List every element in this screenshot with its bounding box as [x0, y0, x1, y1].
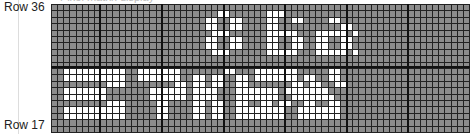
grid-cell[interactable]	[107, 24, 112, 29]
grid-cell[interactable]	[101, 18, 106, 23]
grid-cell[interactable]	[427, 56, 432, 61]
grid-cell[interactable]	[64, 88, 69, 93]
grid-cell[interactable]	[378, 11, 383, 16]
grid-cell[interactable]	[267, 50, 272, 55]
grid-cell[interactable]	[415, 5, 420, 10]
grid-cell[interactable]	[83, 120, 88, 125]
grid-cell[interactable]	[64, 114, 69, 119]
grid-cell[interactable]	[298, 31, 303, 36]
grid-cell[interactable]	[236, 88, 241, 93]
grid-cell[interactable]	[249, 37, 254, 42]
grid-cell[interactable]	[316, 114, 321, 119]
grid-cell[interactable]	[439, 88, 444, 93]
grid-cell[interactable]	[83, 24, 88, 29]
grid-cell[interactable]	[89, 101, 94, 106]
grid-cell[interactable]	[150, 37, 155, 42]
grid-cell[interactable]	[132, 88, 137, 93]
grid-cell[interactable]	[310, 56, 315, 61]
grid-cell[interactable]	[298, 114, 303, 119]
grid-cell[interactable]	[464, 88, 469, 93]
grid-cell[interactable]	[89, 11, 94, 16]
grid-cell[interactable]	[243, 88, 248, 93]
grid-cell[interactable]	[304, 114, 309, 119]
grid-cell[interactable]	[175, 5, 180, 10]
grid-cell[interactable]	[206, 114, 211, 119]
grid-cell[interactable]	[187, 11, 192, 16]
grid-cell[interactable]	[255, 88, 260, 93]
grid-cell[interactable]	[169, 31, 174, 36]
grid-cell[interactable]	[249, 31, 254, 36]
grid-cell[interactable]	[359, 101, 364, 106]
grid-cell[interactable]	[322, 43, 327, 48]
grid-cell[interactable]	[200, 120, 205, 125]
grid-cell[interactable]	[193, 50, 198, 55]
grid-cell[interactable]	[439, 5, 444, 10]
grid-cell[interactable]	[390, 82, 395, 87]
grid-cell[interactable]	[304, 37, 309, 42]
grid-cell[interactable]	[175, 50, 180, 55]
grid-cell[interactable]	[427, 69, 432, 74]
grid-cell[interactable]	[464, 5, 469, 10]
grid-cell[interactable]	[58, 37, 63, 42]
grid-cell[interactable]	[372, 114, 377, 119]
grid-cell[interactable]	[236, 69, 241, 74]
grid-cell[interactable]	[193, 11, 198, 16]
grid-cell[interactable]	[224, 11, 229, 16]
grid-cell[interactable]	[415, 82, 420, 87]
grid-cell[interactable]	[384, 56, 389, 61]
grid-cell[interactable]	[150, 101, 155, 106]
grid-cell[interactable]	[200, 127, 205, 132]
grid-cell[interactable]	[144, 75, 149, 80]
grid-cell[interactable]	[107, 88, 112, 93]
grid-cell[interactable]	[181, 56, 186, 61]
grid-cell[interactable]	[390, 101, 395, 106]
grid-cell[interactable]	[243, 107, 248, 112]
grid-cell[interactable]	[286, 75, 291, 80]
grid-cell[interactable]	[64, 69, 69, 74]
grid-cell[interactable]	[163, 75, 168, 80]
grid-cell[interactable]	[452, 107, 457, 112]
grid-cell[interactable]	[378, 43, 383, 48]
grid-cell[interactable]	[249, 50, 254, 55]
grid-cell[interactable]	[64, 50, 69, 55]
grid-cell[interactable]	[249, 114, 254, 119]
grid-cell[interactable]	[212, 127, 217, 132]
grid-cell[interactable]	[452, 5, 457, 10]
grid-cell[interactable]	[335, 69, 340, 74]
grid-cell[interactable]	[378, 88, 383, 93]
grid-cell[interactable]	[187, 127, 192, 132]
grid-cell[interactable]	[255, 24, 260, 29]
grid-cell[interactable]	[169, 5, 174, 10]
grid-cell[interactable]	[396, 107, 401, 112]
grid-cell[interactable]	[439, 107, 444, 112]
grid-cell[interactable]	[132, 24, 137, 29]
grid-cell[interactable]	[452, 31, 457, 36]
grid-cell[interactable]	[181, 69, 186, 74]
grid-cell[interactable]	[70, 101, 75, 106]
grid-cell[interactable]	[359, 95, 364, 100]
grid-cell[interactable]	[316, 120, 321, 125]
grid-cell[interactable]	[286, 107, 291, 112]
grid-cell[interactable]	[175, 114, 180, 119]
grid-cell[interactable]	[113, 56, 118, 61]
grid-cell[interactable]	[421, 95, 426, 100]
grid-cell[interactable]	[353, 75, 358, 80]
grid-cell[interactable]	[316, 31, 321, 36]
grid-cell[interactable]	[335, 114, 340, 119]
grid-cell[interactable]	[83, 127, 88, 132]
grid-cell[interactable]	[255, 82, 260, 87]
grid-cell[interactable]	[353, 114, 358, 119]
grid-cell[interactable]	[439, 37, 444, 42]
grid-cell[interactable]	[126, 11, 131, 16]
grid-cell[interactable]	[310, 24, 315, 29]
grid-cell[interactable]	[175, 127, 180, 132]
grid-cell[interactable]	[421, 37, 426, 42]
grid-cell[interactable]	[163, 120, 168, 125]
grid-cell[interactable]	[70, 31, 75, 36]
grid-cell[interactable]	[421, 101, 426, 106]
grid-cell[interactable]	[390, 69, 395, 74]
grid-cell[interactable]	[316, 95, 321, 100]
grid-cell[interactable]	[273, 37, 278, 42]
grid-cell[interactable]	[292, 101, 297, 106]
grid-cell[interactable]	[236, 127, 241, 132]
